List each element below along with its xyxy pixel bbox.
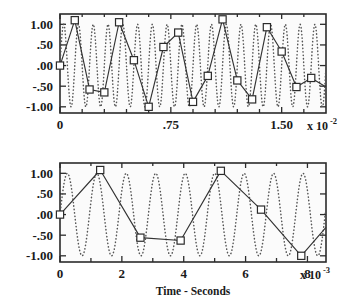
panel-top-panel: 1.00.50.00-.50-1.000.751.50x 10-2: [26, 14, 337, 133]
data-point-marker[interactable]: [175, 29, 182, 36]
data-point-marker[interactable]: [257, 206, 264, 213]
x-tick-label: 0: [57, 117, 64, 132]
x-tick-label: 0: [57, 266, 64, 281]
data-point-marker[interactable]: [137, 234, 144, 241]
data-point-marker[interactable]: [189, 98, 196, 105]
data-point-marker[interactable]: [86, 86, 93, 93]
data-point-marker[interactable]: [204, 72, 211, 79]
x-tick-label: 2: [119, 266, 126, 281]
y-tick-label: .50: [37, 37, 53, 52]
data-point-marker[interactable]: [234, 77, 241, 84]
data-point-marker[interactable]: [101, 89, 108, 96]
x-tick-label: 6: [242, 266, 249, 281]
y-tick-label: .00: [37, 207, 53, 222]
y-tick-label: -.50: [32, 79, 53, 94]
panel-bottom-panel: 1.00.50.00-.50-1.0002468x 10-3Time - Sec…: [26, 163, 330, 297]
data-point-marker[interactable]: [145, 103, 152, 110]
x-axis-exponent-superscript: -3: [323, 265, 330, 275]
plot-frame: [60, 163, 326, 262]
figure-container: 1.00.50.00-.50-1.000.751.50x 10-21.00.50…: [0, 0, 358, 308]
x-tick-label: 4: [180, 266, 187, 281]
x-axis-exponent-base: x 10: [300, 268, 321, 282]
y-tick-label: .00: [37, 58, 53, 73]
data-point-marker[interactable]: [56, 211, 63, 218]
x-axis-exponent-base: x 10: [307, 119, 328, 133]
data-point-marker[interactable]: [160, 43, 167, 50]
y-tick-label: -1.00: [26, 248, 53, 263]
x-tick-label: 1.50: [270, 117, 293, 132]
data-point-marker[interactable]: [71, 17, 78, 24]
data-point-marker[interactable]: [263, 24, 270, 31]
y-tick-label: 1.00: [30, 166, 53, 181]
plot-canvas: 1.00.50.00-.50-1.000.751.50x 10-21.00.50…: [0, 0, 358, 308]
data-point-marker[interactable]: [219, 16, 226, 23]
y-tick-label: 1.00: [30, 17, 53, 32]
data-point-marker[interactable]: [56, 62, 63, 69]
data-point-marker[interactable]: [130, 57, 137, 64]
data-point-marker[interactable]: [217, 167, 224, 174]
data-point-marker[interactable]: [293, 83, 300, 90]
data-point-marker[interactable]: [97, 166, 104, 173]
data-point-marker[interactable]: [249, 96, 256, 103]
y-tick-label: -1.00: [26, 99, 53, 114]
x-axis-title: Time - Seconds: [156, 285, 231, 297]
y-tick-label: .50: [37, 186, 53, 201]
data-point-marker[interactable]: [177, 237, 184, 244]
data-point-marker[interactable]: [278, 48, 285, 55]
x-axis-exponent-superscript: -2: [330, 116, 337, 126]
data-point-marker[interactable]: [298, 252, 305, 259]
x-tick-label: .75: [163, 117, 180, 132]
data-point-marker[interactable]: [116, 19, 123, 26]
data-point-marker[interactable]: [308, 74, 315, 81]
y-tick-label: -.50: [32, 228, 53, 243]
